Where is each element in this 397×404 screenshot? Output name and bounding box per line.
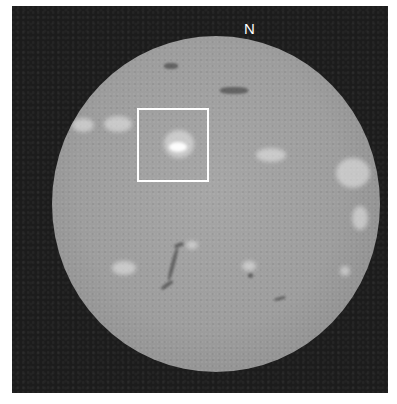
region-of-interest-box xyxy=(137,108,209,182)
plage-central-west xyxy=(256,148,286,162)
filament-dot xyxy=(248,273,253,278)
solar-disk xyxy=(52,36,380,372)
plage-south-1 xyxy=(112,261,136,275)
plage-west-limb xyxy=(336,158,370,188)
plage-southwest xyxy=(340,266,350,276)
plage-northeast-2 xyxy=(104,116,132,132)
filament-north-polar xyxy=(164,63,178,69)
image-frame xyxy=(12,6,388,393)
north-label: N xyxy=(244,21,255,36)
plage-northeast-limb xyxy=(72,118,94,132)
plage-south-3 xyxy=(186,241,198,249)
plage-west-limb-south xyxy=(352,206,368,230)
filament-northern xyxy=(220,87,248,94)
plage-south-2 xyxy=(242,261,256,271)
chromosphere-texture xyxy=(52,36,380,372)
